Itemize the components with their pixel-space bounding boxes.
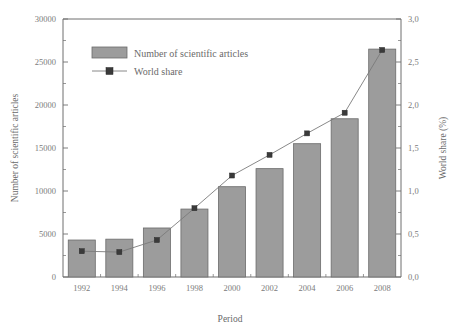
y-right-tick-label: 0,0 bbox=[408, 272, 419, 282]
x-tick-label: 1996 bbox=[148, 283, 165, 293]
world-share-marker bbox=[154, 238, 159, 243]
x-axis-title: Period bbox=[218, 314, 243, 324]
world-share-marker bbox=[192, 206, 197, 211]
x-tick-label: 2000 bbox=[224, 283, 241, 293]
bar bbox=[294, 144, 321, 277]
world-share-marker bbox=[267, 152, 272, 157]
bar bbox=[106, 239, 133, 277]
bar bbox=[218, 187, 245, 277]
y-left-tick-label: 20000 bbox=[35, 100, 56, 110]
legend-marker-sample bbox=[106, 68, 113, 75]
bar bbox=[369, 49, 396, 277]
y-axis-right-title: World share (%) bbox=[438, 117, 449, 180]
bar bbox=[68, 240, 95, 277]
y-axis-right-ticks: 0,00,51,01,52,02,53,0 bbox=[396, 14, 419, 282]
legend-label-worldshare: World share bbox=[134, 66, 183, 77]
chart-svg: 050001000015000200002500030000 0,00,51,0… bbox=[0, 0, 461, 334]
y-right-tick-label: 2,5 bbox=[408, 57, 419, 67]
x-tick-label: 1992 bbox=[73, 283, 90, 293]
y-left-tick-label: 10000 bbox=[35, 186, 56, 196]
x-tick-label: 2006 bbox=[336, 283, 353, 293]
y-left-tick-label: 30000 bbox=[35, 14, 56, 24]
y-right-tick-label: 2,0 bbox=[408, 100, 419, 110]
legend-bar-swatch bbox=[92, 47, 127, 58]
x-tick-label: 1998 bbox=[186, 283, 203, 293]
bar bbox=[143, 228, 170, 277]
y-left-tick-label: 15000 bbox=[35, 143, 56, 153]
y-right-tick-label: 0,5 bbox=[408, 229, 419, 239]
world-share-marker bbox=[117, 250, 122, 255]
y-left-tick-label: 5000 bbox=[39, 229, 56, 239]
y-left-tick-label: 25000 bbox=[35, 57, 56, 67]
x-tick-label: 2002 bbox=[261, 283, 278, 293]
y-left-tick-label: 0 bbox=[52, 272, 56, 282]
bar bbox=[331, 119, 358, 277]
world-share-marker bbox=[305, 131, 310, 136]
x-tick-label: 2008 bbox=[374, 283, 391, 293]
bar bbox=[181, 209, 208, 277]
legend-label-articles: Number of scientific articles bbox=[134, 48, 248, 59]
chart-figure: 050001000015000200002500030000 0,00,51,0… bbox=[0, 0, 461, 334]
y-right-tick-label: 1,0 bbox=[408, 186, 419, 196]
chart-legend: Number of scientific articles World shar… bbox=[92, 47, 248, 77]
y-right-tick-label: 1,5 bbox=[408, 143, 419, 153]
world-share-marker bbox=[380, 47, 385, 52]
x-tick-label: 1994 bbox=[111, 283, 129, 293]
y-right-tick-label: 3,0 bbox=[408, 14, 419, 24]
bar-series bbox=[68, 49, 395, 277]
y-axis-left-title: Number of scientific articles bbox=[10, 93, 20, 202]
bar bbox=[256, 169, 283, 277]
x-tick-label: 2004 bbox=[299, 283, 317, 293]
world-share-marker bbox=[342, 110, 347, 115]
world-share-marker bbox=[79, 249, 84, 254]
world-share-marker bbox=[230, 173, 235, 178]
